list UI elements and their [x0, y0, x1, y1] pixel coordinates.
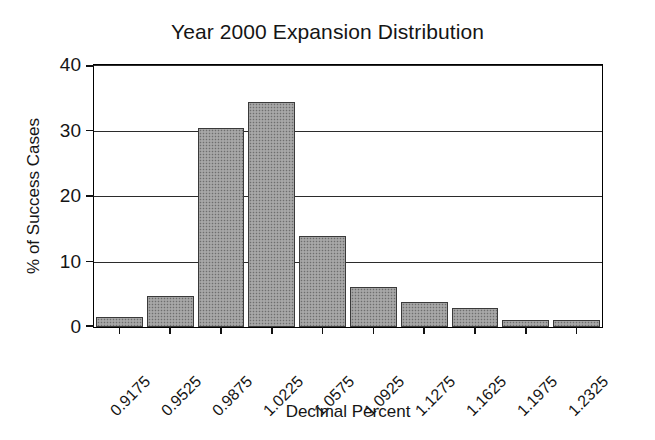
y-tick-mark [86, 130, 94, 132]
x-tick-mark [322, 327, 324, 334]
y-axis: % of Success Cases 010203040 [94, 65, 602, 327]
x-tick-label: 1.1975 [548, 338, 595, 385]
y-tick-label: 0 [70, 316, 81, 338]
x-tick-label: 1.2325 [599, 338, 646, 385]
x-tick-label: 1.0225 [294, 338, 341, 385]
chart-figure: Year 2000 Expansion Distribution % of Su… [0, 0, 655, 440]
x-tick-mark [423, 327, 425, 334]
x-tick-mark [576, 327, 578, 334]
x-tick-label: 1.1625 [497, 338, 544, 385]
y-tick-label: 10 [60, 251, 81, 273]
x-axis-title: Decimal Percent [93, 402, 603, 422]
y-tick-mark [86, 261, 94, 263]
y-tick-mark [86, 195, 94, 197]
chart-title: Year 2000 Expansion Distribution [0, 20, 655, 44]
x-tick-mark [474, 327, 476, 334]
x-tick-mark [373, 327, 375, 334]
plot-area: % of Success Cases 010203040 0.91750.952… [93, 64, 603, 328]
y-tick-label: 30 [60, 120, 81, 142]
x-tick-label: 0.9525 [193, 338, 240, 385]
x-tick-mark [525, 327, 527, 334]
x-tick-mark [119, 327, 121, 334]
y-axis-title: % of Success Cases [24, 118, 44, 274]
y-tick-label: 40 [60, 54, 81, 76]
x-tick-label: 1.0925 [396, 338, 443, 385]
x-tick-label: 0.9875 [243, 338, 290, 385]
x-tick-mark [169, 327, 171, 334]
x-tick-label: 0.9175 [142, 338, 189, 385]
x-tick-mark [220, 327, 222, 334]
y-tick-label: 20 [60, 185, 81, 207]
y-tick-mark [86, 65, 94, 67]
x-tick-mark [271, 327, 273, 334]
x-tick-label: 1.1275 [447, 338, 494, 385]
x-tick-label: 1.0575 [345, 338, 392, 385]
y-tick-mark [86, 325, 94, 327]
